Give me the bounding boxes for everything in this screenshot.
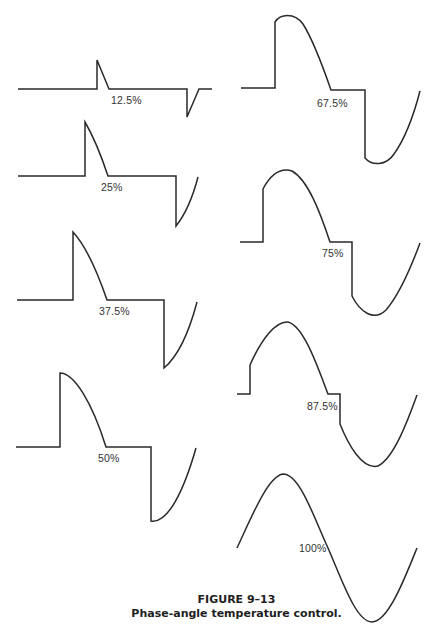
waveform-37-5-percent	[17, 232, 197, 368]
label-12-5-percent: 12.5%	[111, 94, 142, 106]
label-37-5-percent: 37.5%	[99, 305, 130, 317]
label-100-percent: 100%	[299, 542, 327, 554]
waveform-25-percent	[18, 122, 198, 226]
phase-angle-figure	[0, 0, 437, 636]
waveform-67-5-percent	[241, 16, 420, 164]
label-50-percent: 50%	[98, 452, 120, 464]
waveform-50-percent	[16, 373, 196, 521]
label-87-5-percent: 87.5%	[307, 400, 338, 412]
label-67-5-percent: 67.5%	[317, 97, 348, 109]
figure-title: Phase-angle temperature control.	[18, 607, 437, 620]
waveform-87-5-percent	[237, 322, 417, 466]
figure-number: FIGURE 9–13	[18, 593, 437, 606]
waveform-75-percent	[240, 170, 420, 315]
label-75-percent: 75%	[322, 247, 344, 259]
label-25-percent: 25%	[101, 181, 123, 193]
waveform-12-5-percent	[18, 60, 212, 117]
